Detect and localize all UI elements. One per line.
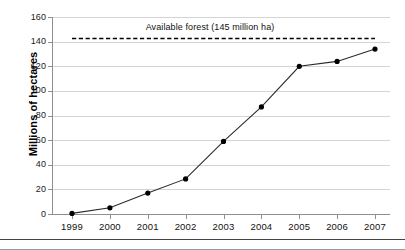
chart-figure: 160 140 120 100 80 60 40 20 0 1999 2000 … — [0, 0, 405, 250]
data-point-2005 — [297, 64, 302, 69]
series-line-certified-forest — [72, 49, 375, 213]
data-point-2006 — [335, 59, 340, 64]
series-layer — [0, 0, 405, 250]
data-point-2001 — [145, 191, 150, 196]
data-point-2004 — [259, 104, 264, 109]
data-point-2007 — [372, 47, 377, 52]
data-point-2002 — [183, 176, 188, 181]
footer-divider — [0, 239, 405, 240]
data-point-2000 — [107, 205, 112, 210]
data-point-1999 — [69, 211, 74, 216]
series-markers — [69, 47, 377, 217]
data-point-2003 — [221, 139, 226, 144]
